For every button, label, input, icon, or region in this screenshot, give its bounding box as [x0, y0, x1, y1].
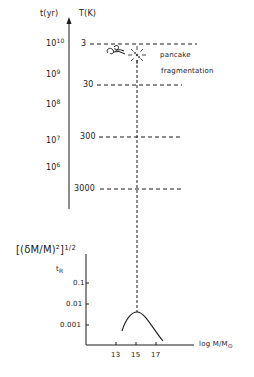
- temperature-label-30: 30: [83, 81, 94, 89]
- x-tick-17: 17: [151, 352, 160, 359]
- x-tick-13: 13: [111, 352, 120, 359]
- arrow-up-icon: [67, 17, 72, 24]
- temperature-label-3000: 3000: [74, 185, 95, 193]
- x-tick-15: 15: [131, 352, 140, 359]
- time-tick-1e6: 106: [46, 164, 61, 172]
- lower-ylabel-sub: tR: [56, 266, 63, 273]
- starburst-icon: [128, 46, 146, 64]
- amplitude-curve: [122, 312, 163, 341]
- lower-xlabel: log M/M⊙: [199, 341, 233, 348]
- lower-ylabel: [(δM/M)²]1/2: [16, 245, 76, 255]
- temperature-label-3: 3: [81, 40, 86, 48]
- annotation-pancake: pancake: [160, 52, 191, 59]
- time-tick-1e8: 108: [46, 101, 61, 109]
- diagram-lines: [0, 0, 254, 377]
- temperature-label-300: 300: [80, 133, 96, 141]
- y-tick-0.01: 0.01: [66, 301, 82, 308]
- time-tick-1e9: 109: [46, 71, 61, 79]
- y-tick-0.1: 0.1: [73, 280, 85, 287]
- time-tick-1e10: 1010: [46, 40, 65, 48]
- y-tick-0.001: 0.001: [60, 322, 81, 329]
- time-tick-1e7: 107: [46, 137, 61, 145]
- annotation-fragmentation: fragmentation: [161, 68, 214, 75]
- swirl-icon: [107, 46, 125, 54]
- time-axis-label: t(yr): [40, 10, 58, 18]
- temperature-axis-label: T(K): [79, 10, 96, 18]
